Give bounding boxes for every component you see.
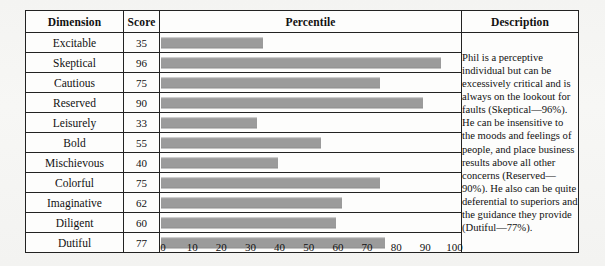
column-header-score: Score: [124, 11, 160, 33]
dimension-label: Skeptical: [26, 53, 124, 73]
table-body: Excitable35Phil is a perceptive individu…: [26, 33, 579, 253]
profile-table: Dimension Score Percentile Description E…: [25, 10, 579, 253]
percentile-bar: [161, 217, 336, 228]
axis-tick: 10: [187, 240, 198, 254]
percentile-bar-cell: [160, 33, 462, 53]
score-value: 96: [124, 53, 160, 73]
description-text: Phil is a perceptive individual but can …: [462, 33, 579, 253]
percentile-bar: [161, 177, 380, 188]
bar-track: [160, 153, 461, 172]
column-header-percentile: Percentile: [160, 11, 462, 33]
bar-track: [160, 113, 461, 132]
dimension-label: Imaginative: [26, 193, 124, 213]
dimension-label: Leisurely: [26, 113, 124, 133]
dimension-label: Colorful: [26, 173, 124, 193]
axis-tick-labels: 0102030405060708090100: [25, 240, 578, 256]
score-value: 40: [124, 153, 160, 173]
score-value: 90: [124, 93, 160, 113]
bar-track: [160, 53, 461, 72]
axis-tick: 20: [216, 240, 227, 254]
table-header: Dimension Score Percentile Description: [26, 11, 579, 33]
percentile-bar: [161, 97, 423, 108]
percentile-bar-cell: [160, 133, 462, 153]
axis-tick: 70: [362, 240, 373, 254]
percentile-bar: [161, 197, 342, 208]
percentile-bar: [161, 137, 321, 148]
axis-tick: 60: [332, 240, 343, 254]
score-value: 75: [124, 173, 160, 193]
personality-profile-figure: Dimension Score Percentile Description E…: [25, 10, 578, 253]
bar-track: [160, 173, 461, 192]
percentile-bar: [161, 57, 441, 68]
percentile-bar-cell: [160, 53, 462, 73]
axis-tick: 0: [160, 240, 166, 254]
dimension-label: Mischievous: [26, 153, 124, 173]
score-value: 55: [124, 133, 160, 153]
score-value: 35: [124, 33, 160, 53]
score-value: 75: [124, 73, 160, 93]
percentile-bar: [161, 157, 278, 168]
score-value: 60: [124, 213, 160, 233]
percentile-bar-cell: [160, 93, 462, 113]
percentile-bar-cell: [160, 193, 462, 213]
axis-tick: 90: [420, 240, 431, 254]
percentile-bar: [161, 77, 380, 88]
dimension-label: Diligent: [26, 213, 124, 233]
bar-track: [160, 93, 461, 112]
axis-tick: 50: [303, 240, 314, 254]
percentile-bar: [161, 37, 263, 48]
percentile-bar: [161, 117, 257, 128]
percentile-bar-cell: [160, 73, 462, 93]
bar-track: [160, 133, 461, 152]
percentile-axis: 0102030405060708090100: [25, 240, 578, 260]
bar-track: [160, 213, 461, 232]
dimension-label: Reserved: [26, 93, 124, 113]
axis-tick: 40: [274, 240, 285, 254]
header-row: Dimension Score Percentile Description: [26, 11, 579, 33]
axis-tick: 100: [446, 240, 463, 254]
description-paragraph: Phil is a perceptive individual but can …: [462, 51, 578, 234]
column-header-description: Description: [462, 11, 579, 33]
column-header-dimension: Dimension: [26, 11, 124, 33]
axis-tick: 30: [245, 240, 256, 254]
score-value: 33: [124, 113, 160, 133]
dimension-label: Cautious: [26, 73, 124, 93]
bar-track: [160, 33, 461, 52]
dimension-label: Excitable: [26, 33, 124, 53]
percentile-bar-cell: [160, 113, 462, 133]
dimension-label: Bold: [26, 133, 124, 153]
axis-tick: 80: [391, 240, 402, 254]
percentile-bar-cell: [160, 213, 462, 233]
percentile-bar-cell: [160, 153, 462, 173]
bar-track: [160, 193, 461, 212]
table-row: Excitable35Phil is a perceptive individu…: [26, 33, 579, 53]
score-value: 62: [124, 193, 160, 213]
bar-track: [160, 73, 461, 92]
percentile-bar-cell: [160, 173, 462, 193]
